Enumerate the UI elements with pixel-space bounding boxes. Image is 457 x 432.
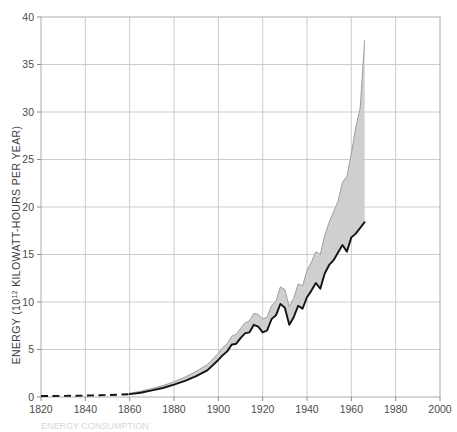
y-tick-label: 15: [22, 248, 34, 260]
chart-figure: 0510152025303540 18201840186018801900192…: [0, 0, 457, 432]
y-axis-ticks: 0510152025303540: [22, 11, 41, 403]
x-tick-label: 1940: [295, 403, 319, 415]
x-tick-label: 1880: [162, 403, 186, 415]
x-tick-label: 1860: [118, 403, 142, 415]
y-tick-label: 35: [22, 58, 34, 70]
y-tick-label: 25: [22, 153, 34, 165]
y-axis-title: ENERGY (1012 KILOWATT-HOURS PER YEAR): [10, 126, 22, 365]
x-tick-label: 1820: [29, 403, 53, 415]
x-tick-label: 1980: [384, 403, 408, 415]
y-tick-label: 0: [28, 391, 34, 403]
x-axis-ticks: 1820184018601880190019201940196019802000: [29, 397, 452, 415]
x-tick-label: 1840: [74, 403, 98, 415]
x-tick-label: 1960: [340, 403, 364, 415]
figure-caption: ENERGY CONSUMPTION: [41, 421, 149, 431]
y-tick-label: 10: [22, 296, 34, 308]
x-tick-label: 2000: [428, 403, 452, 415]
x-tick-label: 1920: [251, 403, 275, 415]
y-tick-label: 40: [22, 11, 34, 23]
y-tick-label: 20: [22, 201, 34, 213]
energy-consumption-chart: 0510152025303540 18201840186018801900192…: [0, 0, 457, 432]
x-tick-label: 1900: [207, 403, 231, 415]
y-tick-label: 5: [28, 343, 34, 355]
y-tick-label: 30: [22, 106, 34, 118]
